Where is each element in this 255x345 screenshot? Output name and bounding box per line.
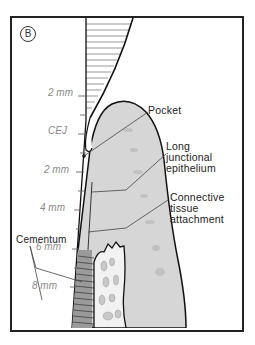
label-long-junctional-line3: epithelium [166, 163, 216, 174]
label-connective-line3: attachment [170, 214, 224, 225]
scale-mark-2mm-upper: 2 mm [48, 88, 73, 98]
label-cementum: Cementum [16, 234, 67, 245]
label-pocket: Pocket [148, 105, 181, 116]
scale-mark-2mm-lower: 2 mm [44, 165, 69, 175]
scale-mark-4mm: 4 mm [40, 203, 65, 213]
scale-mark-8mm: 8 mm [32, 281, 57, 291]
scale-mark-cej: CEJ [48, 126, 67, 136]
cementum-fibers [72, 250, 94, 328]
periodontal-diagram [0, 0, 255, 345]
panel-badge: B [20, 26, 36, 42]
